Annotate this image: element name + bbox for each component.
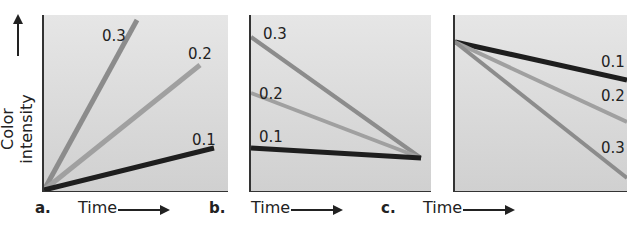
y-axis [453,15,455,192]
panel-a-label: a. [35,199,51,217]
series-label: 0.2 [259,85,283,103]
x-axis [249,191,431,193]
panel-a-lines [42,15,228,192]
x-axis-label: Time [78,198,117,217]
series-label: 0.3 [601,139,625,157]
x-axis [42,191,228,193]
y-axis-label: Color intensity [0,74,36,184]
panel-c: 0.1 0.2 0.3 [453,15,627,192]
panel-b-label: b. [209,199,225,217]
series-label: 0.1 [259,128,283,146]
x-axis-arrow-icon [463,209,511,211]
panel-b: 0.3 0.2 0.1 [249,15,431,192]
panel-a: 0.3 0.2 0.1 [42,15,228,192]
series-label: 0.3 [102,27,126,45]
y-axis [249,15,251,192]
x-axis-arrow-icon [291,209,339,211]
x-axis-label: Time [423,198,462,217]
series-label: 0.1 [192,131,216,149]
x-axis-arrow-icon [118,209,166,211]
series-label: 0.2 [601,87,625,105]
y-axis-arrow-icon [17,20,19,56]
series-label: 0.1 [601,53,625,71]
x-axis-label: Time [251,198,290,217]
panel-c-label: c. [381,199,396,217]
series-label: 0.3 [263,25,287,43]
x-axis [453,191,627,193]
y-axis [42,15,44,192]
series-label: 0.2 [188,45,212,63]
